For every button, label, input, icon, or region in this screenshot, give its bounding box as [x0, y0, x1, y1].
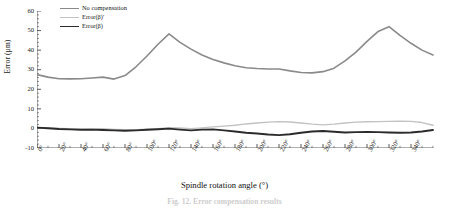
legend-label: No compensation	[82, 5, 127, 11]
legend-swatch-icon	[60, 17, 79, 18]
legend-item: Error(β)'	[60, 13, 190, 22]
legend-label: Error(β)'	[82, 14, 104, 20]
chart-legend: No compensationError(β)'Error(β)	[60, 4, 190, 31]
y-tick-label: 50	[10, 27, 34, 34]
x-axis-title: Spindle rotation angle (°)	[0, 180, 449, 190]
figure-caption: Fig. 12. Error compensation results	[0, 197, 449, 206]
series-line	[37, 27, 433, 79]
y-tick-label: 60	[10, 8, 34, 15]
figure-container: Error (μm) -100102030405060 0°20°40°60°8…	[0, 0, 449, 208]
x-axis-tick-labels: 0°20°40°60°80°100°120°140°160°180°200°22…	[37, 149, 435, 179]
legend-item: Error(β)	[60, 22, 190, 31]
y-tick-label: -10	[10, 145, 34, 152]
legend-label: Error(β)	[82, 23, 103, 29]
series-line	[37, 121, 433, 130]
legend-item: No compensation	[60, 4, 190, 13]
y-tick-label: 0	[10, 125, 34, 132]
plot-area	[37, 11, 435, 148]
y-tick-label: 10	[10, 106, 34, 113]
y-tick-label: 20	[10, 86, 34, 93]
legend-swatch-icon	[60, 26, 79, 27]
chart-canvas	[37, 11, 435, 148]
y-tick-label: 30	[10, 66, 34, 73]
y-axis-tick-labels: -100102030405060	[8, 11, 34, 148]
legend-swatch-icon	[60, 8, 79, 9]
y-tick-label: 40	[10, 47, 34, 54]
